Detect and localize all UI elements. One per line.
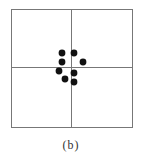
data-dot — [59, 59, 66, 66]
data-dot — [71, 50, 78, 57]
data-dot — [62, 76, 69, 83]
data-dot — [71, 79, 78, 86]
scatter-diagram — [0, 0, 142, 156]
figure-caption: (b) — [0, 138, 142, 153]
data-dot — [56, 68, 63, 75]
data-dot — [59, 50, 66, 57]
data-dot — [80, 59, 87, 66]
data-dot — [71, 70, 78, 77]
